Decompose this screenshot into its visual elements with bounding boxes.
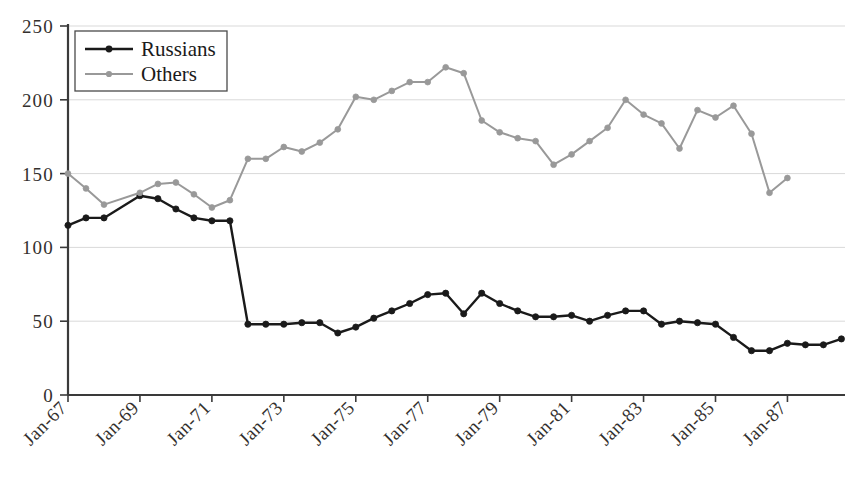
data-point [569,312,575,318]
data-point [730,334,736,340]
data-point [461,311,467,317]
legend-marker [106,71,112,77]
data-point [371,315,377,321]
data-point [227,197,233,203]
data-point [263,321,269,327]
data-point [748,348,754,354]
data-point [299,320,305,326]
data-point [785,175,791,181]
data-point [191,215,197,221]
data-point [533,138,539,144]
data-point [173,206,179,212]
data-point [425,79,431,85]
data-point [767,190,773,196]
data-point [155,196,161,202]
data-point [101,215,107,221]
data-point [281,144,287,150]
y-axis-label: 50 [33,311,54,332]
y-axis-label: 100 [22,237,54,258]
data-point [209,218,215,224]
data-point [443,64,449,70]
data-point [659,121,665,127]
data-point [533,314,539,320]
data-point [389,88,395,94]
data-point [65,222,71,228]
legend-marker [106,46,113,53]
data-point [497,300,503,306]
data-point [731,103,737,109]
data-point [335,330,341,336]
data-point [838,336,844,342]
legend-label: Others [141,62,197,86]
data-point [694,320,700,326]
data-point [83,215,89,221]
data-point [443,290,449,296]
data-point [407,79,413,85]
data-point [65,171,71,177]
data-point [623,97,629,103]
y-axis-label: 200 [22,90,54,111]
data-point [713,115,719,121]
data-point [605,125,611,131]
data-point [281,321,287,327]
data-point [497,129,503,135]
y-axis-label: 150 [22,164,54,185]
data-point [353,94,359,100]
data-point [263,156,269,162]
data-point [820,342,826,348]
data-point [173,180,179,186]
data-point [227,218,233,224]
legend-label: Russians [141,37,216,61]
data-point [245,321,251,327]
data-point [389,308,395,314]
data-point [569,152,575,158]
data-point [551,162,557,168]
data-point [191,191,197,197]
data-point [245,156,251,162]
data-point [425,292,431,298]
data-point [83,186,89,192]
data-point [766,348,772,354]
data-point [209,205,215,211]
data-point [623,308,629,314]
data-point [317,320,323,326]
chart-legend[interactable]: RussiansOthers [75,31,227,91]
data-point [479,290,485,296]
data-point [802,342,808,348]
data-point [676,318,682,324]
data-point [335,126,341,132]
data-point [641,112,647,118]
data-point [515,135,521,141]
data-point [605,312,611,318]
data-point [749,131,755,137]
data-point [712,321,718,327]
data-point [407,300,413,306]
data-point [515,308,521,314]
data-point [587,138,593,144]
data-point [461,70,467,76]
data-point [479,118,485,124]
data-point [137,190,143,196]
data-point [641,308,647,314]
data-point [587,318,593,324]
data-point [101,202,107,208]
data-point [317,140,323,146]
data-point [677,146,683,152]
data-point [353,324,359,330]
chart-canvas: 050100150200250 Jan-67Jan-69Jan-71Jan-73… [0,0,858,483]
data-point [155,181,161,187]
data-point [371,97,377,103]
data-point [695,107,701,113]
y-axis-label: 250 [22,16,54,37]
line-chart: 050100150200250 Jan-67Jan-69Jan-71Jan-73… [0,0,858,483]
data-point [784,340,790,346]
data-point [658,321,664,327]
data-point [299,149,305,155]
data-point [551,314,557,320]
